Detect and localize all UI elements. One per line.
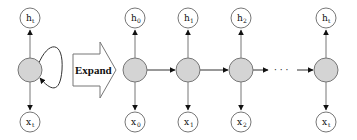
- expand-label: Expand: [75, 64, 112, 76]
- timestep-t: h t x t: [314, 8, 338, 132]
- input-label: x: [322, 117, 327, 127]
- hidden-node: [18, 58, 42, 82]
- timestep-2: h 2 x 2: [229, 8, 253, 132]
- input-sub: 2: [243, 121, 247, 128]
- output-sub: 1: [190, 17, 194, 24]
- input-sub: 0: [137, 121, 141, 128]
- output-sub: 0: [137, 17, 141, 24]
- timestep-1: h 1 x 1: [176, 8, 200, 132]
- input-label: x: [131, 117, 136, 127]
- ellipsis: · · ·: [274, 65, 288, 75]
- folded-rnn: h t x t: [18, 8, 62, 132]
- timestep-0: h 0 x 0: [123, 8, 147, 132]
- expand-arrow: Expand: [73, 42, 116, 98]
- input-label: x: [184, 117, 189, 127]
- output-sub: 2: [243, 17, 247, 24]
- input-label: x: [26, 117, 31, 127]
- rnn-diagram: h t x t Expand · · · h 0 x 0 h 1 x 1: [0, 0, 357, 140]
- input-label: x: [237, 117, 242, 127]
- input-sub: 1: [190, 121, 194, 128]
